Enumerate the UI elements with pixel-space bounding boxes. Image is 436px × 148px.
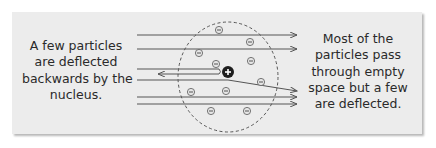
electron-icon	[257, 78, 264, 85]
electron-icon	[187, 88, 194, 95]
electron-icon	[246, 38, 253, 45]
particle-paths	[137, 35, 297, 104]
scattering-diagram	[0, 0, 436, 148]
nucleus-icon	[222, 66, 234, 78]
electron-icon	[215, 26, 222, 33]
electron-icon	[247, 57, 254, 64]
deflected-path	[137, 80, 297, 91]
electron-icon	[243, 107, 250, 114]
electron-icon	[222, 87, 229, 94]
electron-icon	[212, 60, 219, 67]
electron-icon	[195, 49, 202, 56]
electron-icon	[207, 107, 214, 114]
